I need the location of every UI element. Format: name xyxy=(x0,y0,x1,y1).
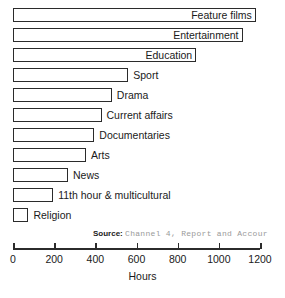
bar-label: Current affairs xyxy=(107,107,173,123)
x-axis-title: Hours xyxy=(0,270,285,282)
x-tick-mark xyxy=(13,243,15,249)
x-tick-label: 1200 xyxy=(248,253,271,265)
bar-label: News xyxy=(73,167,99,183)
x-tick-label: 800 xyxy=(169,253,187,265)
bar-row: Current affairs xyxy=(0,106,285,126)
x-tick-label: 400 xyxy=(87,253,105,265)
x-tick-mark xyxy=(219,243,221,249)
x-tick-mark xyxy=(54,243,56,249)
bar-row: Education xyxy=(0,46,285,66)
bar-label: Documentaries xyxy=(99,127,170,143)
bar[interactable] xyxy=(13,188,53,202)
bar[interactable] xyxy=(13,148,86,162)
bar[interactable] xyxy=(13,68,128,82)
bar-chart: Feature filmsEntertainmentEducationSport… xyxy=(0,0,285,298)
source-label: Source: xyxy=(93,229,123,238)
bar-label: Sport xyxy=(133,67,158,83)
bar[interactable] xyxy=(13,108,102,122)
bar[interactable] xyxy=(13,208,28,222)
plot-area: Feature filmsEntertainmentEducationSport… xyxy=(0,0,285,248)
bar[interactable] xyxy=(13,168,68,182)
bar-label: Religion xyxy=(33,207,71,223)
x-tick-label: 600 xyxy=(128,253,146,265)
source-note: Source: Channel 4, Report and Accour xyxy=(93,228,285,240)
x-tick-label: 200 xyxy=(45,253,63,265)
bar-label: Drama xyxy=(117,87,149,103)
x-axis: Hours 020040060080010001200 xyxy=(0,248,285,298)
source-value: Channel 4, Report and Accour xyxy=(125,229,268,238)
x-tick-mark xyxy=(137,243,139,249)
bar-row: Entertainment xyxy=(0,26,285,46)
bar-row: News xyxy=(0,166,285,186)
bar-label: 11th hour & multicultural xyxy=(58,187,170,203)
bar-row: Sport xyxy=(0,66,285,86)
x-tick-label: 0 xyxy=(10,253,16,265)
x-tick-mark xyxy=(178,243,180,249)
bar-row: Arts xyxy=(0,146,285,166)
x-tick-mark xyxy=(260,243,262,249)
bar-label: Arts xyxy=(91,147,110,163)
bar-label: Entertainment xyxy=(13,27,239,43)
x-tick-mark xyxy=(95,243,97,249)
bar[interactable] xyxy=(13,88,112,102)
bar-row: Drama xyxy=(0,86,285,106)
bar-label: Education xyxy=(13,47,192,63)
bar-row: Feature films xyxy=(0,6,285,26)
bar-row: Religion xyxy=(0,206,285,226)
bar-label: Feature films xyxy=(13,7,252,23)
bar[interactable] xyxy=(13,128,94,142)
x-tick-label: 1000 xyxy=(207,253,230,265)
bar-row: Documentaries xyxy=(0,126,285,146)
bar-row: 11th hour & multicultural xyxy=(0,186,285,206)
